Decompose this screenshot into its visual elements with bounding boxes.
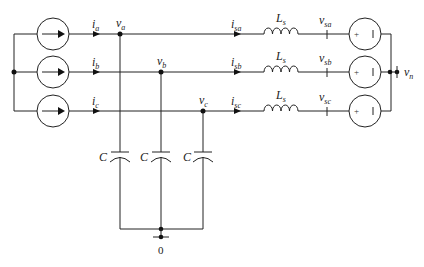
label-vsb: vsb [319, 51, 331, 67]
label-vsa: vsa [319, 13, 331, 29]
voltage-source-a: + [349, 18, 381, 50]
label-vsc: vsc [319, 90, 331, 106]
inductor-a [264, 28, 298, 34]
neutral-junction-dot [388, 70, 393, 75]
label-isa: isa [231, 17, 241, 33]
node-va-dot [118, 32, 123, 37]
capacitor-b [151, 152, 171, 229]
svg-text:+: + [354, 29, 359, 39]
inductor-b [264, 66, 298, 72]
label-cap-b: C [140, 150, 149, 164]
voltage-source-c: + [349, 95, 381, 127]
label-ground: 0 [158, 244, 164, 256]
node-vb-dot [159, 70, 164, 75]
capacitor-a [110, 152, 130, 229]
current-source-a [37, 18, 69, 50]
current-source-c [37, 95, 69, 127]
label-cap-a: C [99, 150, 108, 164]
label-ic: ic [92, 94, 99, 110]
node-vc-dot [201, 109, 206, 114]
circuit-diagram: ia ib ic va vb vc C C C 0 isa isb isc [0, 0, 424, 267]
label-isc: isc [231, 94, 241, 110]
label-ib: ib [92, 55, 99, 71]
label-ls-c: Ls [275, 88, 286, 104]
label-vb: vb [157, 54, 166, 70]
label-va: va [116, 16, 125, 32]
label-isb: isb [231, 55, 241, 71]
capacitor-c [193, 152, 213, 229]
label-vc: vc [199, 93, 208, 109]
inductor-c [264, 105, 298, 111]
svg-text:+: + [354, 106, 359, 116]
left-junction-dot [12, 70, 17, 75]
label-cap-c: C [183, 150, 192, 164]
current-source-b [37, 56, 69, 88]
label-ia: ia [92, 17, 99, 33]
svg-text:+: + [354, 67, 359, 77]
voltage-source-b: + [349, 56, 381, 88]
label-ls-a: Ls [275, 11, 286, 27]
label-ls-b: Ls [275, 49, 286, 65]
left-bus [12, 34, 38, 111]
right-bus [381, 34, 399, 111]
ground-dot [159, 235, 164, 240]
label-vn: vn [404, 65, 413, 81]
